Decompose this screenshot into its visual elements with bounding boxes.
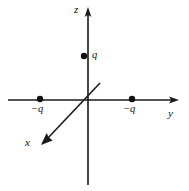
axes-drawing [0, 0, 189, 191]
charge-dot-negative-left [37, 96, 43, 102]
x-axis-label: x [25, 137, 30, 148]
charge-label-positive-z: q [92, 50, 97, 61]
coordinate-axes-figure: z y x q −q −q [0, 0, 189, 191]
z-axis-label: z [74, 4, 78, 15]
charge-label-negative-left: −q [31, 104, 43, 115]
y-axis-label: y [168, 108, 173, 119]
charge-dot-positive-z [81, 53, 87, 59]
charge-label-negative-right: −q [123, 104, 135, 115]
charge-dot-negative-right [129, 96, 135, 102]
x-axis-line [47, 83, 100, 139]
